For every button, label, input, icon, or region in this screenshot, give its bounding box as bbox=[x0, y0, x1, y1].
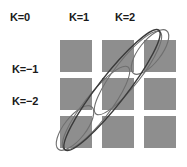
grid-cell bbox=[102, 40, 134, 72]
grid-cell bbox=[144, 78, 176, 110]
lattice-plot bbox=[0, 0, 187, 167]
grid-cells bbox=[60, 40, 176, 148]
grid-cell bbox=[60, 40, 92, 72]
grid-cell bbox=[144, 116, 176, 148]
k-index-grid-figure: K=0 K=1 K=2 K=−1 K=−2 bbox=[0, 0, 187, 167]
grid-cell bbox=[102, 116, 134, 148]
